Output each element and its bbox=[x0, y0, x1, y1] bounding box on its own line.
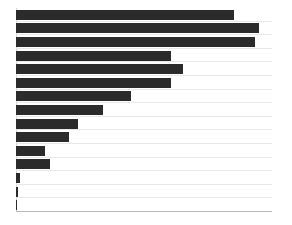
grid-line bbox=[16, 21, 272, 22]
bar-row[interactable] bbox=[16, 119, 272, 129]
grid-line bbox=[16, 34, 272, 35]
bar-row[interactable] bbox=[16, 146, 272, 156]
plot-area bbox=[16, 8, 272, 212]
grid-line bbox=[16, 61, 272, 62]
grid-line bbox=[16, 129, 272, 130]
bar[interactable] bbox=[16, 159, 50, 169]
grid-line bbox=[16, 184, 272, 185]
bar[interactable] bbox=[16, 78, 171, 88]
bar-row[interactable] bbox=[16, 200, 272, 210]
bar-row[interactable] bbox=[16, 78, 272, 88]
bar[interactable] bbox=[16, 119, 78, 129]
bar[interactable] bbox=[16, 173, 20, 183]
bar-row[interactable] bbox=[16, 159, 272, 169]
bar[interactable] bbox=[16, 51, 171, 61]
bar[interactable] bbox=[16, 91, 131, 101]
bar-row[interactable] bbox=[16, 23, 272, 33]
grid-line bbox=[16, 157, 272, 158]
bar-row[interactable] bbox=[16, 173, 272, 183]
bar-row[interactable] bbox=[16, 64, 272, 74]
bar[interactable] bbox=[16, 23, 259, 33]
grid-line bbox=[16, 116, 272, 117]
bar[interactable] bbox=[16, 105, 103, 115]
grid-line bbox=[16, 89, 272, 90]
bar[interactable] bbox=[16, 132, 69, 142]
bar-row[interactable] bbox=[16, 105, 272, 115]
bar-row[interactable] bbox=[16, 10, 272, 20]
bar-chart bbox=[0, 0, 292, 225]
bar[interactable] bbox=[16, 10, 234, 20]
x-axis-line bbox=[16, 211, 272, 212]
grid-line bbox=[16, 143, 272, 144]
bar-row[interactable] bbox=[16, 187, 272, 197]
bar[interactable] bbox=[16, 187, 18, 197]
bar-row[interactable] bbox=[16, 91, 272, 101]
bar[interactable] bbox=[16, 64, 183, 74]
bar[interactable] bbox=[16, 37, 255, 47]
grid-line bbox=[16, 75, 272, 76]
bar-row[interactable] bbox=[16, 51, 272, 61]
grid-line bbox=[16, 197, 272, 198]
bar-row[interactable] bbox=[16, 37, 272, 47]
grid-line bbox=[16, 102, 272, 103]
grid-line bbox=[16, 170, 272, 171]
grid-line bbox=[16, 48, 272, 49]
bar[interactable] bbox=[16, 200, 17, 210]
bar-row[interactable] bbox=[16, 132, 272, 142]
bar[interactable] bbox=[16, 146, 45, 156]
